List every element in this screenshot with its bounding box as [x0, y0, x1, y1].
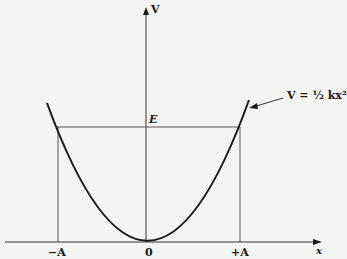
origin-tick-label: 0 [145, 247, 153, 258]
curve-equation-label: V = ½ kx² [287, 90, 347, 101]
curve-pointer-line [253, 98, 283, 107]
curve-pointer-arrow-icon [249, 103, 258, 109]
energy-label: E [149, 114, 157, 125]
v-axis-arrow-icon [143, 7, 149, 15]
parabola-curve [47, 100, 249, 241]
pos-amplitude-tick-label: +A [231, 247, 249, 258]
neg-amplitude-tick-label: −A [48, 247, 66, 258]
x-axis-label: x [316, 246, 322, 256]
v-axis-label: V [151, 4, 160, 15]
